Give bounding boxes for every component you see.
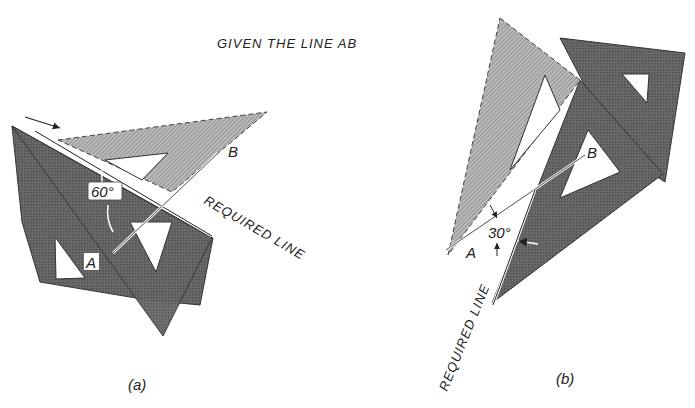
point-a-label-a: A [85,254,96,271]
required-line-label-b: REQUIRED LINE [436,282,493,393]
required-line-label-a: REQUIRED LINE [202,193,308,263]
angle-label-30: 30° [488,224,511,241]
caption-a: (a) [128,376,146,393]
caption-b: (b) [556,370,574,387]
drawing-canvas: 60° A B REQUIRED LINE 30° A B REQUIRED L… [0,0,695,408]
slide-arrow-icon [25,117,60,128]
point-b-label-a: B [228,143,238,160]
figure-a: 60° A B REQUIRED LINE [12,112,308,336]
angle-label-60: 60° [91,183,114,200]
figure-b: 30° A B REQUIRED LINE [436,18,685,393]
point-a-label-b: A [465,244,476,261]
point-b-label-b: B [587,144,597,161]
